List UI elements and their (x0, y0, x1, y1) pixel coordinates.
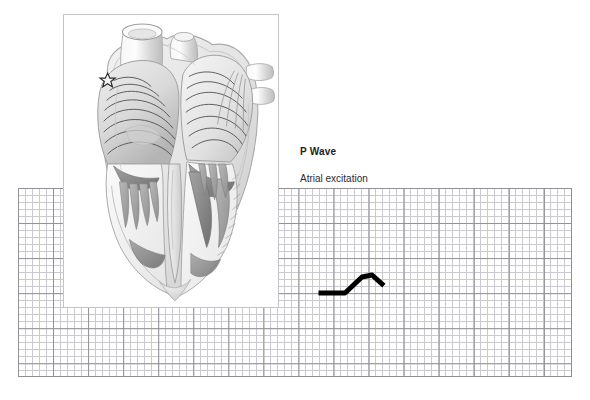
heart-cross-section-illustration (64, 15, 278, 307)
right-atrium (98, 60, 179, 164)
p-wave-title: P Wave (300, 145, 500, 158)
ecg-p-wave-trace (300, 255, 420, 315)
left-ventricle (181, 162, 240, 295)
left-atrium (181, 55, 253, 162)
right-ventricle (106, 164, 167, 293)
p-wave-subtitle: Atrial excitation (300, 172, 500, 185)
caption-block: P Wave Atrial excitation (300, 145, 500, 185)
heart-anatomy-panel (63, 14, 279, 308)
p-wave-polyline (321, 275, 382, 293)
